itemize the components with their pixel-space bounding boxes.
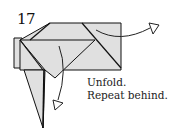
instruction-line-2: Repeat behind.	[87, 89, 168, 102]
leg-edge	[43, 70, 44, 128]
instruction-text: Unfold. Repeat behind.	[87, 76, 168, 102]
leg-flap	[24, 70, 45, 128]
instruction-line-1: Unfold.	[87, 76, 168, 89]
origami-diagram	[0, 0, 192, 135]
